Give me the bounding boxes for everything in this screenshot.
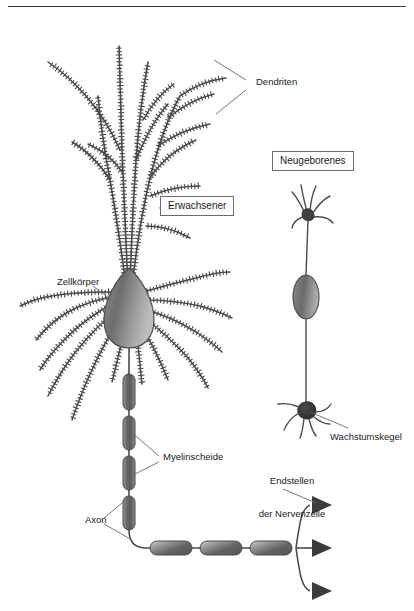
adult-soma xyxy=(104,268,154,348)
label-endstellen-line1: Endstellen xyxy=(248,475,336,486)
label-zellkoerper: Zellkörper xyxy=(57,276,99,287)
myelin-segment xyxy=(150,541,192,555)
myelin-segment xyxy=(123,374,135,410)
newborn-soma xyxy=(293,275,319,319)
terminal-bouton xyxy=(312,582,332,600)
myelin-segment xyxy=(250,541,292,555)
myelin-segment xyxy=(123,416,135,450)
newborn-neuron xyxy=(278,185,333,438)
neuron-figure: Dendriten Erwachsener Neugeborenes Zellk… xyxy=(0,0,414,611)
label-erwachsener: Erwachsener xyxy=(160,196,234,216)
label-neugeborenes: Neugeborenes xyxy=(272,151,354,171)
label-wachstumskegel: Wachstumskegel xyxy=(330,431,402,442)
adult-axon-vertical xyxy=(123,348,146,548)
myelin-segment xyxy=(123,456,135,490)
label-dendriten: Dendriten xyxy=(256,76,297,87)
label-myelinscheide: Myelinscheide xyxy=(163,451,223,462)
terminal-bouton xyxy=(312,539,332,557)
label-endstellen-line2: der Nervenzelle xyxy=(248,508,336,519)
label-endstellen: Endstellen der Nervenzelle xyxy=(248,453,336,541)
neuron-illustration xyxy=(0,0,414,611)
myelin-segment xyxy=(200,541,242,555)
label-axon: Axon xyxy=(85,514,107,525)
adult-dendrite-tree xyxy=(20,46,232,420)
